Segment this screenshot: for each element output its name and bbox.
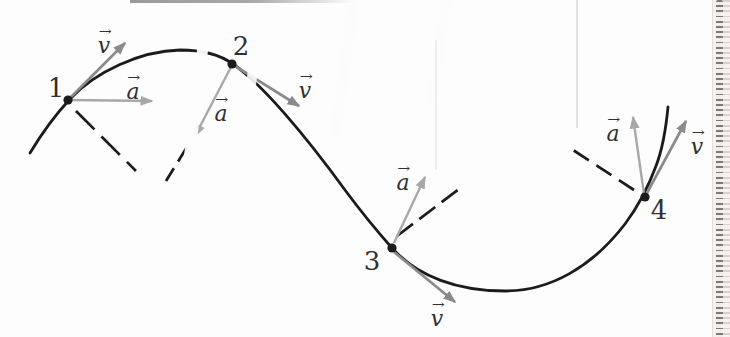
normal-dashed-line-2 [166,147,187,181]
point-label-4: 4 [651,197,668,223]
acceleration-label-1: → a [126,73,139,101]
velocity-label-2: → v [299,72,311,100]
vector-hat-arrow: → [299,72,312,81]
vector-hat-arrow: → [607,115,620,124]
velocity-label-3: → v [431,300,443,328]
figure-canvas: 1 2 3 4 → v → a → v → a → a → v → a → v [0,0,730,337]
acceleration-label-2: → a [214,95,227,123]
normal-dashed-line-4 [570,148,634,190]
vector-hat-arrow: → [127,73,140,82]
velocity-arrow-4 [647,121,686,193]
velocity-arrow-3 [394,252,455,302]
point-dot-4 [640,192,649,201]
acceleration-label-4: → a [606,115,619,143]
acceleration-label-3: → a [396,164,409,192]
vector-hat-arrow: → [431,300,444,309]
velocity-label-1: → v [98,27,110,55]
normal-dashed-line-3 [397,189,459,236]
cropped-figure-edge-line [130,0,354,3]
point-label-3: 3 [364,248,381,274]
acceleration-arrow-4 [633,117,644,194]
vector-hat-arrow: → [397,164,410,173]
vector-hat-arrow: → [215,95,228,104]
point-label-2: 2 [233,33,250,59]
velocity-arrow-2 [235,66,299,106]
vector-hat-arrow: → [98,27,111,36]
point-label-1: 1 [48,75,65,101]
point-dot-3 [387,243,396,252]
point-dot-1 [63,95,72,104]
acceleration-arrow-1 [70,100,152,101]
velocity-label-4: → v [691,128,703,156]
normal-dashed-line-1 [76,111,136,171]
vector-hat-arrow: → [691,128,704,137]
page-edge-binding [712,0,730,337]
